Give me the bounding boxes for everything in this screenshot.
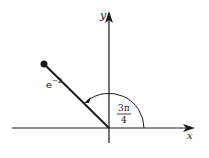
angle-arc-arrow-icon xyxy=(84,97,91,103)
radius-vector xyxy=(44,64,109,128)
angle-numerator: 3π xyxy=(118,103,130,113)
modulus-label: e−2 xyxy=(46,77,62,90)
x-axis-label: x xyxy=(187,130,193,141)
angle-arc xyxy=(87,93,145,128)
point-marker xyxy=(41,61,48,68)
y-axis-label: y xyxy=(99,9,107,22)
angle-denominator: 4 xyxy=(121,115,127,125)
polar-diagram: y x e−2 3π 4 xyxy=(0,0,209,158)
modulus-exponent: −2 xyxy=(52,77,62,85)
